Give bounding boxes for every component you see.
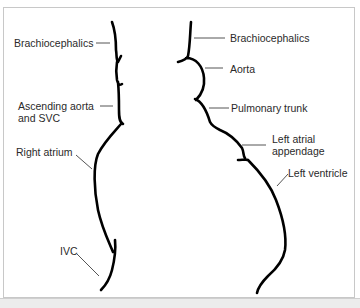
label-ascending-aorta-line1: Ascending aorta [18, 100, 94, 112]
label-brachiocephalics-right: Brachiocephalics [230, 32, 309, 44]
label-right-atrium: Right atrium [16, 146, 73, 158]
label-left-ventricle: Left ventricle [288, 167, 348, 179]
label-left-atrial-appendage-line2: appendage [272, 145, 325, 157]
label-brachiocephalics-left: Brachiocephalics [14, 37, 93, 49]
label-pulmonary-trunk: Pulmonary trunk [231, 102, 307, 114]
left-cardiac-border [95, 22, 123, 290]
label-left-atrial-appendage-line1: Left atrial [272, 133, 315, 145]
label-ivc: IVC [60, 245, 78, 257]
label-ascending-aorta-line2: and SVC [18, 112, 60, 124]
label-aorta: Aorta [230, 63, 255, 75]
